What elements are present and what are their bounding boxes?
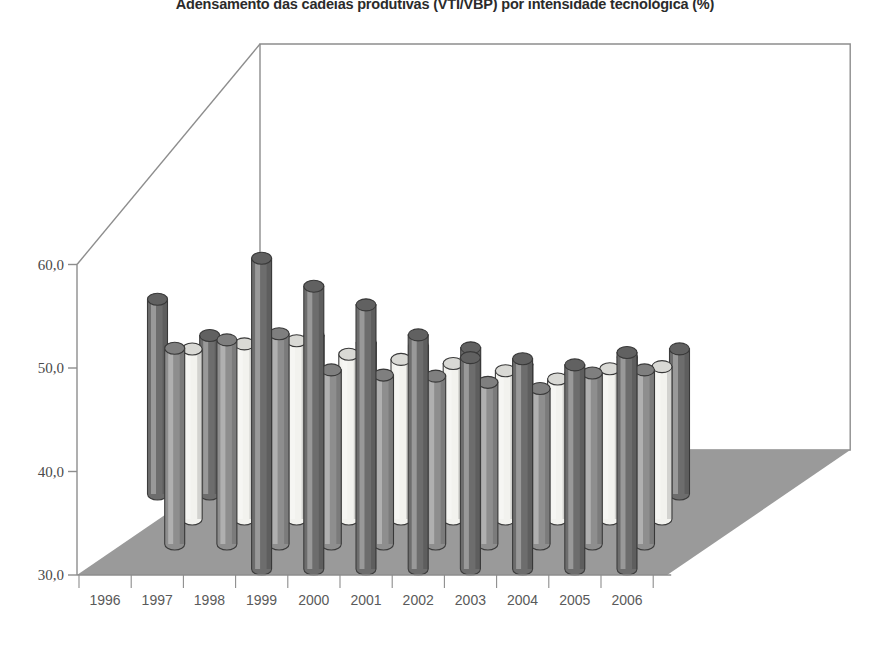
cylinder-shade <box>441 376 446 544</box>
bar-1998-row-3 <box>217 334 237 550</box>
cylinder-shade <box>389 375 394 544</box>
cylinder-shade <box>423 335 428 569</box>
cylinder-highlight <box>621 352 626 569</box>
cylinder-highlight <box>429 376 434 544</box>
x-axis-tick-label: 2001 <box>350 592 381 608</box>
cylinder-highlight <box>290 341 295 519</box>
cylinder-highlight <box>656 367 661 519</box>
cylinder-cap-shade <box>148 293 168 305</box>
y-axis-tick-label: 30,0 <box>38 567 64 583</box>
cylinder-highlight <box>586 373 591 544</box>
cylinder-highlight <box>412 335 417 569</box>
cylinder-cap-shade <box>670 343 690 355</box>
cylinder-shade <box>319 286 324 569</box>
cylinder-shade <box>371 305 376 569</box>
cylinder-highlight <box>220 340 225 544</box>
cylinder-highlight <box>481 382 486 544</box>
cylinder-highlight <box>255 258 260 569</box>
x-axis-tick-label: 1997 <box>142 592 173 608</box>
cylinder-cap-shade <box>408 329 428 341</box>
cylinder-highlight <box>638 370 643 544</box>
cylinder-cap-shade <box>513 353 533 365</box>
x-axis-tick-label: 1999 <box>246 592 277 608</box>
cylinder-highlight <box>568 365 573 569</box>
cylinder-cap-shade <box>356 299 376 311</box>
cylinder-highlight <box>673 349 678 494</box>
cylinder-shade <box>580 365 585 569</box>
cylinder-shade <box>545 389 550 544</box>
cylinder-shade <box>632 352 637 569</box>
cylinder-shade <box>475 358 480 569</box>
y-axis-tick-label: 40,0 <box>38 464 64 480</box>
chart-page: Adensamento das cadeias produtivas (VTI/… <box>0 0 890 656</box>
cylinder-cap-shade <box>217 334 237 346</box>
chart-canvas: 30,040,050,060,0199619971998199920002001… <box>0 0 890 656</box>
chart-svg: 30,040,050,060,0199619971998199920002001… <box>0 0 890 656</box>
cylinder-highlight <box>273 334 278 544</box>
chart-left-wall-edge <box>77 44 260 265</box>
bar-1999-row-4-back <box>252 252 272 575</box>
cylinder-highlight <box>151 299 156 494</box>
cylinder-shade <box>180 348 185 544</box>
bar-2000-row-4-back <box>304 280 324 575</box>
cylinder-cap-shade <box>460 352 480 364</box>
cylinder-highlight <box>186 349 191 519</box>
x-axis-tick-label: 2004 <box>507 592 538 608</box>
cylinder-highlight <box>447 364 452 519</box>
bar-2003-row-4-back <box>460 352 480 575</box>
cylinder-shade <box>267 258 272 569</box>
bar-2002-row-4-back <box>408 329 428 575</box>
cylinder-highlight <box>360 305 365 569</box>
x-axis-tick-label: 2005 <box>559 592 590 608</box>
cylinder-highlight <box>603 369 608 519</box>
cylinder-highlight <box>464 358 469 569</box>
cylinder-shade <box>528 359 533 569</box>
cylinder-shade <box>284 334 289 544</box>
cylinder-cap-shade <box>252 252 272 264</box>
cylinder-highlight <box>307 286 312 569</box>
cylinder-shade <box>650 370 655 544</box>
cylinder-highlight <box>168 348 173 544</box>
x-axis-tick-label: 2003 <box>455 592 486 608</box>
cylinder-shade <box>336 370 341 544</box>
bar-2001-row-4-back <box>356 299 376 575</box>
x-axis-tick-label: 2002 <box>403 592 434 608</box>
cylinder-highlight <box>203 335 208 494</box>
cylinder-highlight <box>499 371 504 519</box>
x-axis-tick-label: 2000 <box>298 592 329 608</box>
cylinder-highlight <box>551 379 556 519</box>
cylinder-shade <box>197 349 202 519</box>
cylinder-shade <box>685 349 690 494</box>
cylinder-highlight <box>238 344 243 519</box>
bar-2004-row-4-back <box>513 353 533 575</box>
bar-2006-row-4-back <box>617 346 637 575</box>
cylinder-shade <box>667 367 672 519</box>
cylinder-shade <box>493 382 498 544</box>
cylinder-cap-shade <box>304 280 324 292</box>
cylinder-highlight <box>395 359 400 519</box>
bar-1997-row-3 <box>165 342 185 550</box>
bar-2005-row-4-back <box>565 359 585 575</box>
cylinder-highlight <box>534 389 539 544</box>
x-axis-tick-label: 2006 <box>611 592 642 608</box>
cylinder-cap-shade <box>165 342 185 354</box>
x-axis-tick-label: 1998 <box>194 592 225 608</box>
cylinder-highlight <box>516 359 521 569</box>
cylinder-highlight <box>325 370 330 544</box>
cylinder-cap-shade <box>617 346 637 358</box>
x-axis-tick-label: 1996 <box>89 592 120 608</box>
cylinder-highlight <box>377 375 382 544</box>
cylinder-cap-shade <box>565 359 585 371</box>
y-axis-tick-label: 60,0 <box>38 257 64 273</box>
y-axis-tick-label: 50,0 <box>38 360 64 376</box>
cylinder-shade <box>597 373 602 544</box>
cylinder-shade <box>232 340 237 544</box>
cylinder-highlight <box>342 354 347 519</box>
